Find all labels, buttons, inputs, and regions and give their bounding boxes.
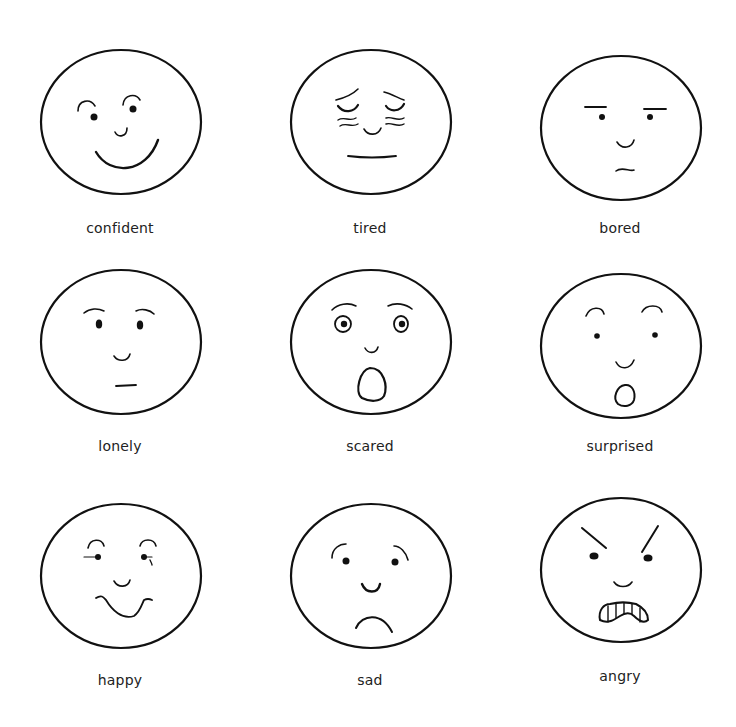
lonely-face-icon	[38, 268, 208, 418]
face-label-angry: angry	[500, 668, 736, 684]
sad-face-icon	[288, 502, 458, 652]
face-label-scared: scared	[250, 438, 490, 454]
face-label-sad: sad	[250, 672, 490, 688]
face-label-lonely: lonely	[0, 438, 240, 454]
scared-face-icon	[288, 268, 458, 418]
happy-face-icon	[38, 502, 208, 652]
face-label-tired: tired	[250, 220, 490, 236]
face-label-happy: happy	[0, 672, 240, 688]
confident-face-icon	[38, 48, 208, 198]
face-label-bored: bored	[500, 220, 736, 236]
surprised-face-icon	[538, 272, 708, 422]
face-label-surprised: surprised	[500, 438, 736, 454]
face-label-confident: confident	[0, 220, 240, 236]
bored-face-icon	[538, 54, 708, 204]
angry-face-icon	[538, 496, 708, 646]
tired-face-icon	[288, 48, 458, 198]
